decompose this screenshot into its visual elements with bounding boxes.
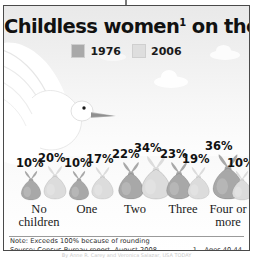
legend-swatch-1976: [71, 44, 85, 58]
chart-plot-area: 10%20%10%17%22%34%23%19%36%10%: [8, 66, 247, 201]
legend-label-2006: 2006: [151, 45, 182, 58]
category-label-line1: Three: [158, 203, 208, 216]
bar-no-children-2006: 20%: [38, 153, 62, 201]
bar-four-or-more-2006: 10%: [227, 158, 250, 202]
category-label-two: Two: [110, 203, 160, 216]
ages-footnote: 1 – Ages 40-44: [193, 246, 242, 251]
data-label-two-1976: 22%: [112, 149, 136, 160]
legend-item-2006: 2006: [132, 44, 182, 58]
page-title: Childless women1 on the rise: [4, 15, 249, 38]
category-axis: NochildrenOneTwoThreeFour ormore: [8, 203, 247, 237]
category-label-line2: children: [14, 216, 64, 229]
infographic-root: Childless women1 on the rise 1976 2006 1…: [0, 0, 253, 261]
data-label-four-or-more-1976: 36%: [205, 141, 229, 152]
bar-group-one: 10%17%: [64, 66, 112, 201]
category-label-no-children: Nochildren: [14, 203, 64, 229]
bar-group-no-children: 10%20%: [16, 66, 64, 201]
chart-legend: 1976 2006: [4, 44, 249, 58]
category-label-three: Three: [158, 203, 208, 216]
title-tail: on the rise: [186, 15, 250, 38]
bar-no-children-1976: 10%: [16, 158, 40, 202]
credit-line: By Anne R. Carey and Veronica Salazar, U…: [0, 252, 253, 258]
data-label-three-2006: 19%: [182, 154, 206, 165]
data-label-four-or-more-2006: 10%: [227, 158, 250, 169]
bar-one-1976: 10%: [64, 158, 88, 202]
category-label-one: One: [62, 203, 112, 216]
bar-one-2006: 17%: [86, 154, 110, 201]
bar-group-four-or-more: 36%10%: [205, 66, 250, 201]
category-label-line2: more: [203, 216, 250, 229]
bundle-icon-four-or-more-2006: [227, 170, 250, 202]
bar-group-two: 22%34%: [112, 66, 160, 201]
data-label-one-2006: 17%: [86, 154, 110, 165]
bar-two-1976: 22%: [112, 149, 136, 201]
data-label-one-1976: 10%: [64, 158, 88, 169]
bar-group-three: 23%19%: [160, 66, 208, 201]
bar-three-2006: 19%: [182, 154, 206, 201]
chart-frame: Childless women1 on the rise 1976 2006 1…: [3, 5, 250, 251]
note-text: Note: Exceeds 100% because of rounding: [10, 237, 150, 245]
bar-two-2006: 34%: [134, 143, 158, 201]
data-label-no-children-1976: 10%: [16, 158, 40, 169]
category-label-four-or-more: Four ormore: [203, 203, 250, 229]
bar-three-1976: 23%: [160, 149, 184, 201]
source-text: Source: Census Bureau report, August 200…: [10, 246, 157, 251]
category-label-line1: Two: [110, 203, 160, 216]
category-label-line1: One: [62, 203, 112, 216]
data-label-no-children-2006: 20%: [38, 153, 62, 164]
legend-swatch-2006: [132, 44, 146, 58]
bar-four-or-more-1976: 36%: [205, 141, 229, 201]
data-label-two-2006: 34%: [134, 143, 158, 154]
data-label-three-1976: 23%: [160, 149, 184, 160]
title-main: Childless women: [4, 15, 179, 38]
legend-label-1976: 1976: [90, 45, 121, 58]
legend-item-1976: 1976: [71, 44, 121, 58]
